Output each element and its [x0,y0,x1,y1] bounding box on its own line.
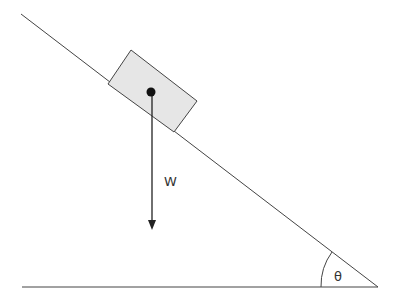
center-of-mass-dot [147,88,156,97]
weight-label: W [164,174,177,189]
arrowhead-icon [148,220,156,230]
angle-arc [321,252,332,287]
diagram-canvas: W θ [0,0,397,307]
angle-label: θ [334,269,342,284]
inclined-plane-diagram: W θ [0,0,397,307]
incline-line [21,14,378,287]
